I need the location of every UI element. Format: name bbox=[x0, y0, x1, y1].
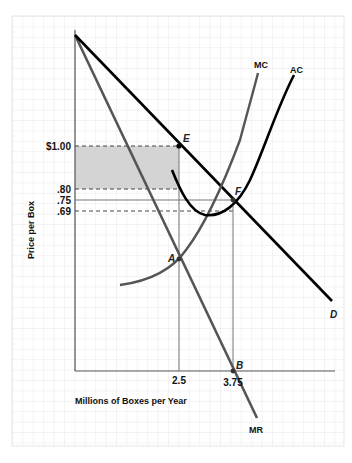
point-a bbox=[177, 257, 182, 262]
x-axis-label: Millions of Boxes per Year bbox=[75, 396, 187, 406]
label-ac: AC bbox=[290, 65, 303, 75]
label-e: E bbox=[183, 133, 190, 144]
ytick-0.69: .69 bbox=[57, 206, 71, 217]
y-axis-label: Price per Box bbox=[26, 201, 36, 259]
label-a: A bbox=[167, 253, 175, 264]
ytick-0.75: .75 bbox=[57, 195, 71, 206]
label-mc: MC bbox=[254, 60, 268, 70]
point-f bbox=[231, 198, 236, 203]
ytick-0.80: .80 bbox=[57, 184, 71, 195]
label-b: B bbox=[236, 360, 243, 371]
profit-area bbox=[75, 146, 179, 189]
ytick-1.00: $1.00 bbox=[46, 141, 71, 152]
xtick-2.5: 2.5 bbox=[172, 375, 186, 386]
label-mr: MR bbox=[249, 425, 263, 435]
point-b bbox=[231, 369, 236, 374]
xtick-3.75: 3.75 bbox=[223, 377, 243, 388]
label-d: D bbox=[330, 309, 337, 320]
point-e bbox=[176, 143, 181, 148]
label-f: F bbox=[235, 186, 242, 197]
monopoly-diagram: E F A B MC AC D MR $1.00 .80 .75 .69 2.5… bbox=[0, 0, 352, 463]
